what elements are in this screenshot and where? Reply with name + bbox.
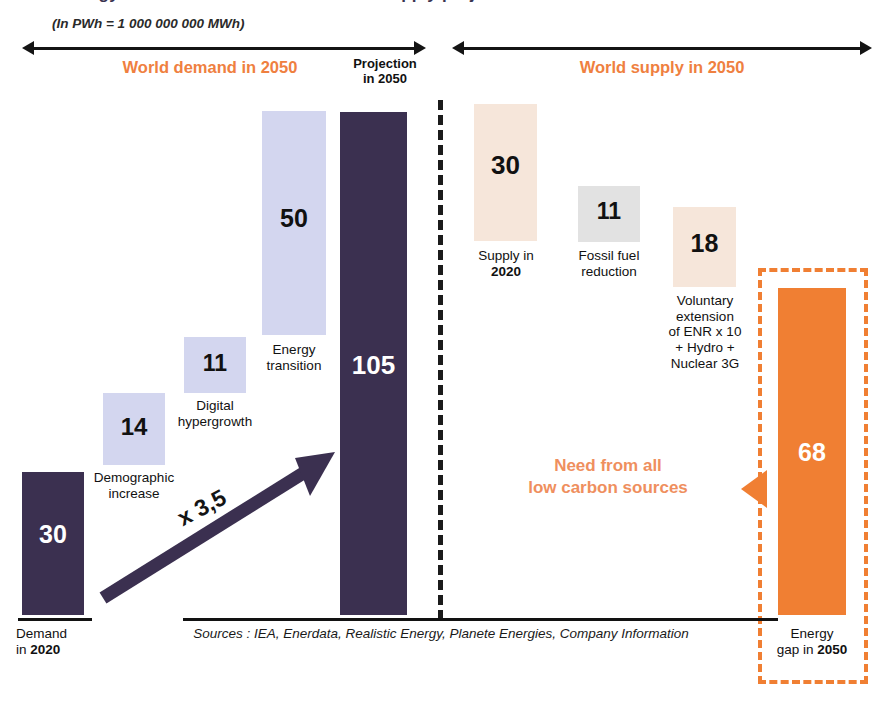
projection-header-line1: Projection [330,57,440,72]
bar-value-energy-gap: 68 [778,438,846,467]
section-header-demand: World demand in 2050 [90,58,330,77]
bar-fossil-fuel-reduction: 11 [578,186,640,242]
section-header-supply: World supply in 2050 [542,58,782,77]
projection-header-line2: in 2050 [330,72,440,87]
bar-energy-gap: 68 [778,288,846,615]
bar-value-fossil-reduction: 11 [578,198,640,225]
bar-demand-2020: 30 [22,472,84,615]
bar-digital-hypergrowth: 11 [184,337,246,393]
bar-voluntary-extension: 18 [673,207,736,287]
bar-label-voluntary-line3: of ENR x 10 [655,324,755,340]
callout-pointer-triangle-icon [741,470,767,508]
bar-energy-transition: 50 [262,111,326,335]
source-note: Sources : IEA, Enerdata, Realistic Energ… [186,626,696,641]
page-title: Energy transition – world demand and sup… [60,0,850,6]
growth-arrow-icon [95,430,345,620]
bar-label-voluntary-line1: Voluntary [655,293,755,309]
bar-value-voluntary-extension: 18 [673,229,736,258]
supply-span-arrow-icon [452,41,872,55]
bar-value-energy-transition: 50 [262,204,326,233]
arrow-head-right-icon [414,41,426,55]
bar-label-supply-2020: Supply in 2020 [460,248,552,279]
gap-in-word: gap in [777,642,818,657]
projection-header: Projection in 2050 [330,57,440,87]
bar-label-demand-2020: Demand in 2020 [6,626,112,657]
bar-label-voluntary-line4: + Hydro + [655,340,755,356]
bar-label-supply-2020-line2: 2020 [460,264,552,280]
bar-label-digital: Digital hypergrowth [163,398,267,429]
bar-value-digital: 11 [184,350,246,377]
baseline-center [183,618,778,621]
bar-label-energy-transition: Energy transition [248,342,340,373]
low-carbon-callout-line1: Need from all [478,455,738,477]
infographic-canvas: Energy transition – world demand and sup… [0,0,883,708]
bar-label-voluntary-line2: extension [655,309,755,325]
bar-value-demand-2020: 30 [22,520,84,549]
bar-label-energy-transition-line2: transition [248,358,340,374]
bar-value-projection: 105 [340,350,407,381]
bar-projection-2050: 105 [340,112,407,615]
low-carbon-callout: Need from all low carbon sources [478,455,738,499]
bar-value-supply-2020: 30 [474,150,537,181]
bar-label-supply-2020-line1: Supply in [460,248,552,264]
year-2020: 2020 [30,642,60,657]
arrow-head-right-icon-right-section [860,41,872,55]
arrow-shaft [30,47,418,50]
demand-span-arrow-icon [22,41,426,55]
in-word: in [16,642,30,657]
bar-supply-2020: 30 [474,104,537,241]
low-carbon-callout-line2: low carbon sources [478,477,738,499]
bar-label-digital-line2: hypergrowth [163,414,267,430]
bar-label-energy-gap: Energy gap in 2050 [762,626,862,657]
bar-label-fossil-reduction: Fossil fuel reduction [562,248,656,279]
growth-arrow-group: x 3,5 [95,430,345,620]
unit-note: (In PWh = 1 000 000 000 MWh) [52,16,244,31]
bar-label-energy-gap-line2: gap in 2050 [762,642,862,658]
year-2050: 2050 [817,642,847,657]
bar-label-fossil-reduction-line1: Fossil fuel [562,248,656,264]
arrow-shaft-right-section [460,47,864,50]
bar-label-fossil-reduction-line2: reduction [562,264,656,280]
bar-label-demand-2020-line1: Demand [16,626,112,642]
bar-label-digital-line1: Digital [163,398,267,414]
bar-label-demand-2020-line2: in 2020 [16,642,112,658]
bar-label-voluntary-line5: Nuclear 3G [655,356,755,372]
bar-label-voluntary-extension: Voluntary extension of ENR x 10 + Hydro … [655,293,755,371]
section-divider [438,100,443,620]
bar-label-energy-transition-line1: Energy [248,342,340,358]
year-supply-2020: 2020 [491,264,521,279]
baseline-left-demand [18,618,92,621]
bar-label-energy-gap-line1: Energy [762,626,862,642]
